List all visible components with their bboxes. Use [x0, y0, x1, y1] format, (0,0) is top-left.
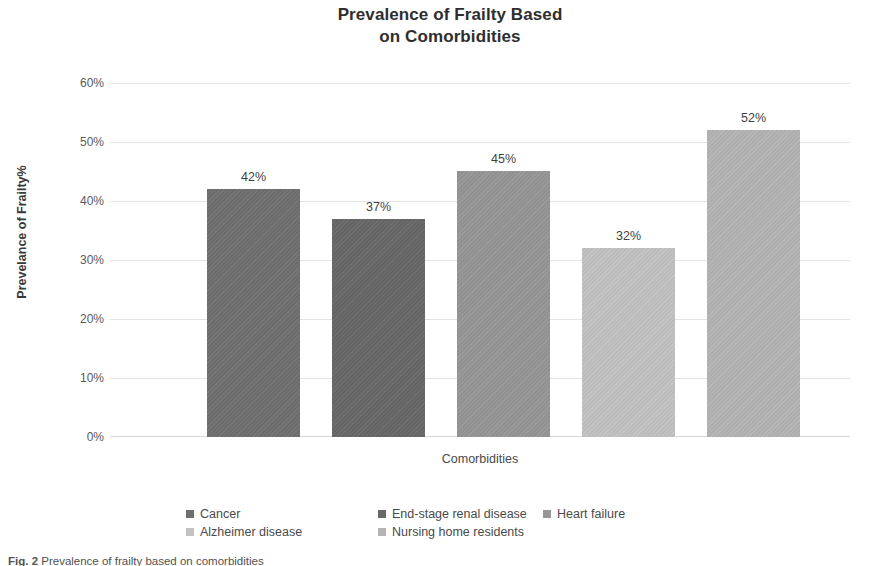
- y-tick-label-0: 0%: [44, 431, 104, 443]
- y-tick-label-20: 20%: [44, 313, 104, 325]
- bar-texture: [457, 171, 550, 437]
- bar-label-end-stage-renal-disease: 37%: [332, 201, 425, 214]
- bar-nursing-home-residents[interactable]: [707, 130, 800, 437]
- bar-texture: [707, 130, 800, 437]
- legend-label-nursing-home-residents: Nursing home residents: [392, 525, 524, 539]
- legend-item-heart-failure[interactable]: Heart failure: [543, 507, 625, 521]
- y-tick-label-60: 60%: [44, 77, 104, 89]
- bar-alzheimer-disease[interactable]: [582, 248, 675, 437]
- plot-area: 42% 37% 45% 32% 52%: [110, 83, 850, 437]
- bar-end-stage-renal-disease[interactable]: [332, 219, 425, 437]
- bar-texture: [582, 248, 675, 437]
- x-axis-title: Comorbidities: [110, 452, 850, 466]
- frailty-prevalence-bar-chart: Prevalence of Frailty Based on Comorbidi…: [0, 0, 895, 566]
- chart-title-line-1: Prevalence of Frailty Based: [150, 4, 750, 26]
- legend-row-1: Cancer End-stage renal disease Heart fai…: [186, 505, 716, 523]
- bar-label-alzheimer-disease: 32%: [582, 230, 675, 243]
- y-tick-label-10: 10%: [44, 372, 104, 384]
- bar-label-heart-failure: 45%: [457, 153, 550, 166]
- legend-swatch-icon-heart-failure: [543, 510, 551, 518]
- legend-item-nursing-home-residents[interactable]: Nursing home residents: [378, 525, 524, 539]
- figure-caption: Fig. 2 Prevalence of frailty based on co…: [8, 554, 548, 566]
- bar-label-cancer: 42%: [207, 171, 300, 184]
- y-axis-tick-labels: 60% 50% 40% 30% 20% 10% 0%: [38, 83, 104, 437]
- legend-swatch-icon-nursing-home-residents: [378, 528, 386, 536]
- chart-title: Prevalence of Frailty Based on Comorbidi…: [150, 4, 750, 48]
- legend-label-end-stage-renal-disease: End-stage renal disease: [392, 507, 527, 521]
- legend-label-cancer: Cancer: [200, 507, 240, 521]
- y-tick-label-40: 40%: [44, 195, 104, 207]
- figure-caption-label: Fig. 2: [8, 555, 38, 566]
- figure-caption-text: Prevalence of frailty based on comorbidi…: [41, 555, 263, 566]
- legend-swatch-icon-end-stage-renal-disease: [378, 510, 386, 518]
- legend-item-cancer[interactable]: Cancer: [186, 507, 378, 521]
- chart-legend: Cancer End-stage renal disease Heart fai…: [186, 505, 716, 541]
- legend-swatch-icon-cancer: [186, 510, 194, 518]
- legend-swatch-icon-alzheimer-disease: [186, 528, 194, 536]
- bar-texture: [332, 219, 425, 437]
- bar-texture: [207, 189, 300, 437]
- legend-item-end-stage-renal-disease[interactable]: End-stage renal disease: [378, 507, 543, 521]
- chart-title-line-2: on Comorbidities: [150, 26, 750, 48]
- legend-item-alzheimer-disease[interactable]: Alzheimer disease: [186, 525, 378, 539]
- legend-label-heart-failure: Heart failure: [557, 507, 625, 521]
- bar-label-nursing-home-residents: 52%: [707, 112, 800, 125]
- y-axis-title: Prevelance of Frailty%: [15, 132, 29, 332]
- y-tick-label-50: 50%: [44, 136, 104, 148]
- legend-label-alzheimer-disease: Alzheimer disease: [200, 525, 302, 539]
- bar-heart-failure[interactable]: [457, 171, 550, 437]
- bar-cancer[interactable]: [207, 189, 300, 437]
- y-tick-label-30: 30%: [44, 254, 104, 266]
- legend-row-2: Alzheimer disease Nursing home residents: [186, 523, 716, 541]
- gridline-60: [110, 83, 850, 84]
